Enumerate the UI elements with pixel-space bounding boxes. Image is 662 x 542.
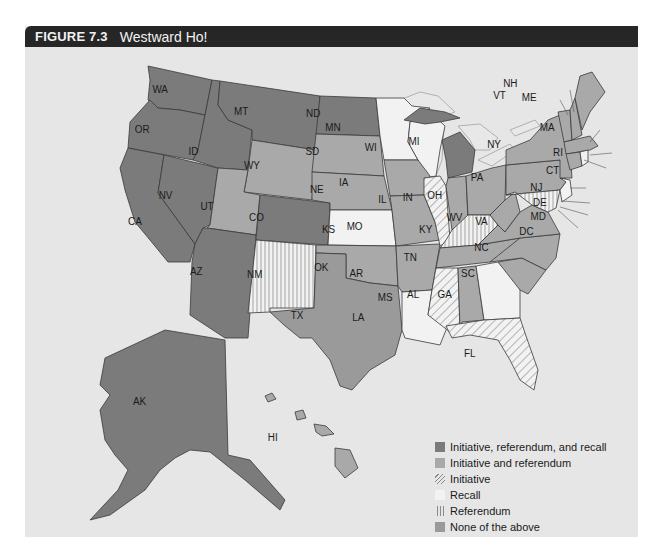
label-MN: MN bbox=[325, 121, 340, 133]
state-CO bbox=[256, 195, 330, 245]
label-IL: IL bbox=[378, 193, 386, 205]
label-LA: LA bbox=[352, 311, 364, 323]
label-OK: OK bbox=[314, 261, 328, 273]
label-CO: CO bbox=[249, 211, 264, 223]
legend-label: Recall bbox=[450, 489, 481, 501]
legend-item-rf: Referendum bbox=[435, 503, 607, 519]
map-legend: Initiative, referendum, and recall Initi… bbox=[435, 439, 607, 535]
label-RI: RI bbox=[553, 146, 563, 158]
legend-item-rc: Recall bbox=[435, 487, 607, 503]
legend-label: Initiative, referendum, and recall bbox=[450, 441, 607, 453]
state-SD bbox=[312, 134, 384, 176]
legend-item-i: Initiative bbox=[435, 471, 607, 487]
label-GA: GA bbox=[437, 288, 451, 300]
label-KY: KY bbox=[419, 223, 432, 235]
swatch-dark-icon bbox=[435, 442, 445, 452]
legend-label: Initiative bbox=[450, 473, 490, 485]
label-NE: NE bbox=[310, 183, 324, 195]
label-WY: WY bbox=[244, 159, 260, 171]
label-OH: OH bbox=[427, 189, 442, 201]
state-HI-3 bbox=[314, 424, 334, 436]
state-AK bbox=[90, 330, 285, 520]
label-MD: MD bbox=[531, 210, 547, 222]
label-AK: AK bbox=[133, 395, 146, 407]
label-MI: MI bbox=[409, 135, 420, 147]
legend-item-ir: Initiative and referendum bbox=[435, 455, 607, 471]
label-ID: ID bbox=[189, 145, 199, 157]
label-WI: WI bbox=[365, 141, 377, 153]
legend-label: Initiative and referendum bbox=[450, 457, 571, 469]
label-NM: NM bbox=[247, 268, 262, 280]
label-SC: SC bbox=[461, 267, 475, 279]
label-VA: VA bbox=[475, 215, 487, 227]
state-AZ bbox=[190, 228, 256, 338]
label-FL: FL bbox=[464, 347, 476, 359]
legend-item-none: None of the above bbox=[435, 519, 607, 535]
label-KS: KS bbox=[322, 223, 335, 235]
label-ME: ME bbox=[522, 91, 537, 103]
label-IN: IN bbox=[403, 191, 413, 203]
label-NC: NC bbox=[474, 241, 489, 253]
label-AL: AL bbox=[407, 288, 419, 300]
legend-label: None of the above bbox=[450, 521, 540, 533]
state-FL[interactable] bbox=[446, 318, 538, 390]
label-IA: IA bbox=[339, 176, 348, 188]
swatch-vertical-icon bbox=[435, 506, 445, 516]
label-TN: TN bbox=[404, 251, 417, 263]
state-HI-2 bbox=[295, 410, 306, 420]
state-HI-1 bbox=[265, 393, 276, 402]
label-ND: ND bbox=[306, 107, 321, 119]
label-TX: TX bbox=[291, 309, 304, 321]
label-WV: WV bbox=[447, 211, 463, 223]
label-MO: MO bbox=[347, 220, 363, 232]
label-NH: NH bbox=[503, 77, 517, 89]
label-OR: OR bbox=[135, 123, 150, 135]
label-NV: NV bbox=[159, 189, 173, 201]
label-MT: MT bbox=[234, 105, 249, 117]
label-HI: HI bbox=[268, 431, 278, 443]
label-WA: WA bbox=[152, 83, 168, 95]
label-CA: CA bbox=[128, 215, 142, 227]
figure-panel: FIGURE 7.3 Westward Ho! bbox=[25, 26, 638, 537]
label-DC: DC bbox=[519, 225, 534, 237]
label-AR: AR bbox=[350, 267, 364, 279]
label-NJ: NJ bbox=[530, 181, 542, 193]
label-MA: MA bbox=[540, 121, 555, 133]
label-MS: MS bbox=[378, 291, 393, 303]
label-CT: CT bbox=[546, 164, 560, 176]
label-DE: DE bbox=[533, 196, 547, 208]
legend-label: Referendum bbox=[450, 505, 511, 517]
label-UT: UT bbox=[200, 200, 214, 212]
label-AZ: AZ bbox=[190, 265, 203, 277]
swatch-medium-icon bbox=[435, 458, 445, 468]
label-NY: NY bbox=[487, 138, 501, 150]
swatch-diagonal-icon bbox=[435, 474, 445, 484]
state-HI-4 bbox=[335, 448, 358, 478]
label-VT: VT bbox=[493, 89, 506, 101]
label-PA: PA bbox=[471, 171, 483, 183]
swatch-none-icon bbox=[435, 522, 445, 532]
label-SD: SD bbox=[305, 145, 319, 157]
swatch-blank-icon bbox=[435, 490, 445, 500]
legend-item-irr: Initiative, referendum, and recall bbox=[435, 439, 607, 455]
